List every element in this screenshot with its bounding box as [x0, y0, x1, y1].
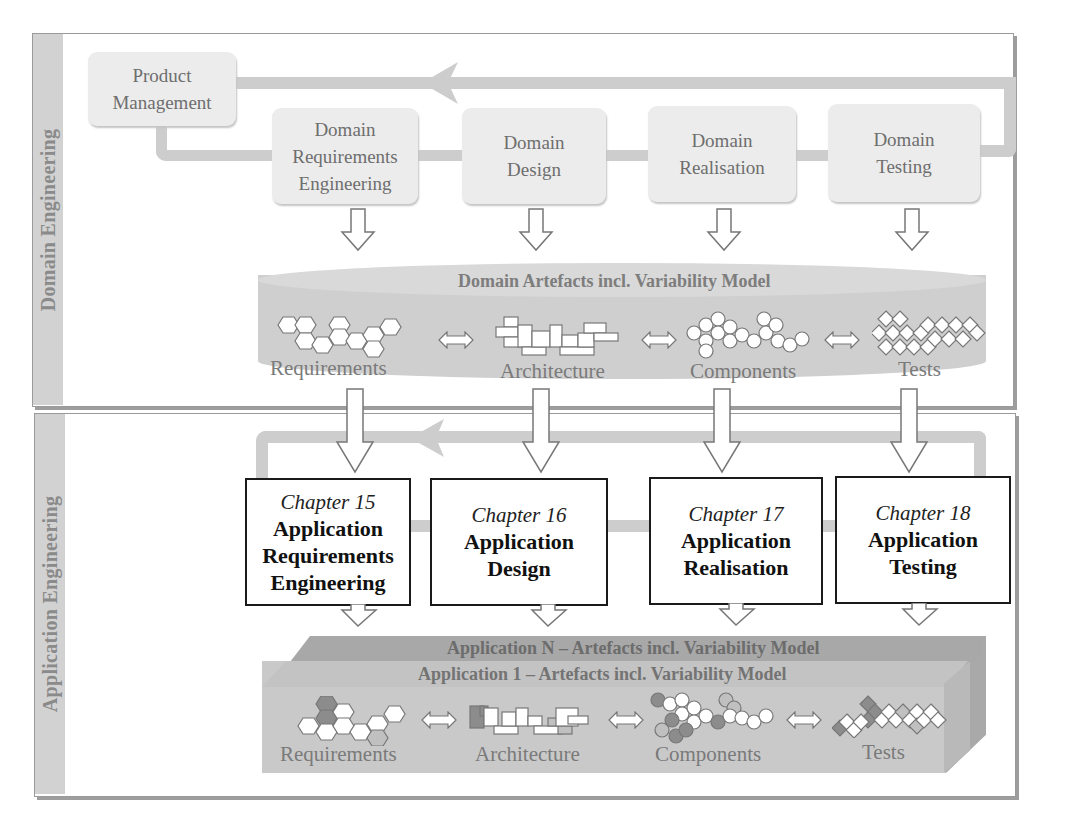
- domain-artefacts-title: Domain Artefacts incl. Variability Model: [458, 271, 770, 292]
- components-gears-variant-icon: [650, 692, 778, 746]
- down-arrow-icon: [718, 603, 756, 627]
- chapter-title-line: Application: [868, 526, 978, 553]
- pm-down-connector: [156, 120, 167, 161]
- bidirectional-arrow-icon: [786, 711, 822, 729]
- app-artefact-label-architecture: Architecture: [475, 742, 580, 767]
- down-arrow-icon: [518, 208, 554, 252]
- bidirectional-arrow-icon: [641, 331, 677, 349]
- architecture-puzzle-variant-icon: [468, 704, 592, 738]
- step-line: Domain: [503, 129, 564, 156]
- chapter-title-line: Application: [464, 528, 574, 555]
- domain-engineering-label: Domain Engineering: [37, 128, 60, 311]
- down-arrow-icon: [901, 603, 939, 627]
- application-engineering-label: Application Engineering: [39, 496, 62, 712]
- step-line: Realisation: [679, 154, 764, 181]
- chapter-title-line: Requirements: [262, 542, 394, 569]
- chapter-title-line: Engineering: [271, 569, 386, 596]
- feedback-arrowhead-icon: [408, 417, 448, 459]
- domain-feedback-loop-top: [236, 77, 1016, 89]
- artefact-label-architecture: Architecture: [500, 359, 605, 384]
- step-line: Domain: [873, 126, 934, 153]
- domain-artefacts-repository: Domain Artefacts incl. Variability Model…: [258, 263, 986, 391]
- step-line: Domain: [292, 116, 398, 143]
- components-gears-icon: [684, 311, 814, 359]
- app-feedback-loop-right: [974, 431, 986, 481]
- chapter-number: Chapter 17: [688, 501, 783, 527]
- chapter-title-line: Application: [681, 527, 791, 554]
- application-engineering-sidebar: Application Engineering: [35, 414, 65, 794]
- down-arrow-icon: [522, 388, 562, 474]
- architecture-puzzle-icon: [494, 315, 624, 357]
- chapter-16-application-design[interactable]: Chapter 16 Application Design: [430, 478, 608, 606]
- bidirectional-arrow-icon: [438, 331, 474, 349]
- step-line: Requirements: [292, 143, 398, 170]
- requirements-hexagons-icon: [276, 313, 406, 359]
- chapter-title-line: Design: [487, 555, 551, 582]
- down-arrow-icon: [340, 208, 376, 252]
- app-artefact-label-tests: Tests: [862, 740, 905, 765]
- product-management-label: Product Management: [102, 62, 222, 116]
- chapter-15-application-requirements-engineering[interactable]: Chapter 15 Application Requirements Engi…: [245, 478, 411, 606]
- down-arrow-icon: [706, 208, 742, 252]
- requirements-hexagons-variant-icon: [296, 696, 408, 746]
- bidirectional-arrow-icon: [421, 711, 457, 729]
- chapter-number: Chapter 18: [875, 500, 970, 526]
- app-artefact-label-requirements: Requirements: [280, 742, 397, 767]
- step-line: Testing: [873, 153, 934, 180]
- step-line: Engineering: [292, 170, 398, 197]
- chapter-number: Chapter 16: [471, 502, 566, 528]
- artefact-label-components: Components: [690, 359, 796, 384]
- down-arrow-icon: [530, 604, 568, 628]
- app-artefact-label-components: Components: [655, 742, 761, 767]
- chapter-17-application-realisation[interactable]: Chapter 17 Application Realisation: [649, 477, 823, 605]
- tests-diamonds-icon: [872, 309, 990, 359]
- tests-diamonds-variant-icon: [832, 694, 952, 738]
- product-management-box: Product Management: [88, 52, 236, 126]
- domain-design-box: Domain Design: [462, 108, 606, 204]
- domain-realisation-box: Domain Realisation: [648, 106, 796, 202]
- application-n-artefacts-title: Application N – Artefacts incl. Variabil…: [447, 638, 820, 659]
- feedback-arrowhead-icon: [420, 60, 460, 106]
- domain-requirements-engineering-box: Domain Requirements Engineering: [272, 108, 418, 204]
- chapter-number: Chapter 15: [280, 489, 375, 515]
- down-arrow-icon: [336, 388, 376, 474]
- domain-testing-box: Domain Testing: [828, 104, 980, 202]
- chapter-title-line: Testing: [889, 553, 957, 580]
- step-line: Design: [503, 156, 564, 183]
- chapter-title-line: Application: [273, 515, 383, 542]
- step-line: Domain: [679, 127, 764, 154]
- down-arrow-icon: [340, 604, 378, 628]
- down-arrow-icon: [890, 388, 930, 474]
- chapter-title-line: Realisation: [683, 554, 788, 581]
- bidirectional-arrow-icon: [824, 331, 860, 349]
- artefact-label-requirements: Requirements: [270, 356, 387, 381]
- domain-engineering-sidebar: Domain Engineering: [33, 34, 63, 405]
- down-arrow-icon: [703, 388, 743, 474]
- artefact-label-tests: Tests: [898, 357, 941, 382]
- down-arrow-icon: [894, 208, 930, 252]
- chapter-18-application-testing[interactable]: Chapter 18 Application Testing: [835, 476, 1011, 604]
- bidirectional-arrow-icon: [608, 711, 644, 729]
- application-1-artefacts-title: Application 1 – Artefacts incl. Variabil…: [418, 664, 787, 685]
